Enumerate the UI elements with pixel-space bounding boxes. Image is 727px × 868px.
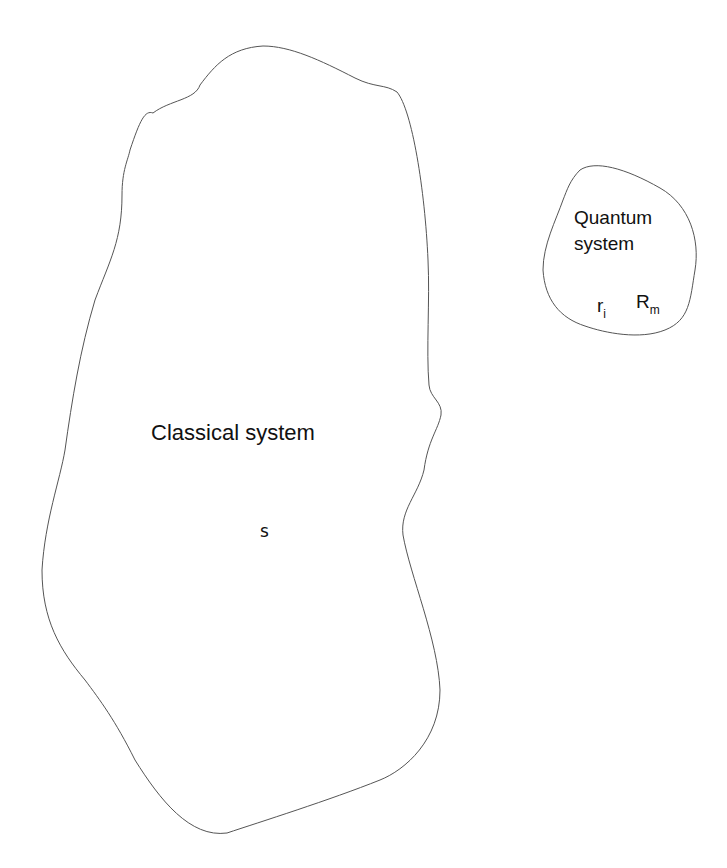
quantum-system-label-line1: Quantum (574, 206, 652, 230)
quantum-variable-R-m: Rm (636, 290, 660, 316)
diagram-canvas (0, 0, 727, 868)
quantum-system-label-line2: system (574, 232, 634, 256)
var-R-subscript: m (650, 303, 660, 317)
classical-system-label: Classical system (151, 420, 315, 446)
classical-state-variable: s (260, 521, 269, 541)
quantum-variable-r-i: ri (597, 294, 606, 320)
var-R-base: R (636, 291, 650, 312)
var-r-subscript: i (603, 307, 606, 321)
